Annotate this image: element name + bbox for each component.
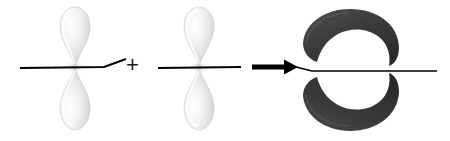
p-orbital-right-lower-lobe bbox=[184, 68, 214, 130]
crescent-lower-shape bbox=[303, 73, 399, 131]
orbital-diagram: + bbox=[0, 0, 450, 141]
p-orbital-left bbox=[20, 7, 126, 130]
p-orbital-left-lower-lobe bbox=[60, 68, 90, 130]
p-orbital-left-upper-lobe bbox=[60, 7, 90, 66]
plus-operator: + bbox=[126, 54, 139, 76]
axis-line-right bbox=[158, 67, 241, 68]
arrow-head bbox=[284, 60, 298, 75]
crescent-upper-shape bbox=[303, 9, 399, 66]
pi-antibonding-orbital bbox=[296, 9, 437, 131]
p-orbital-right bbox=[158, 7, 241, 130]
reaction-arrow bbox=[252, 60, 298, 75]
diagram-svg-canvas bbox=[0, 0, 450, 141]
p-orbital-right-upper-lobe bbox=[184, 7, 214, 66]
axis-line-product bbox=[296, 67, 437, 71]
